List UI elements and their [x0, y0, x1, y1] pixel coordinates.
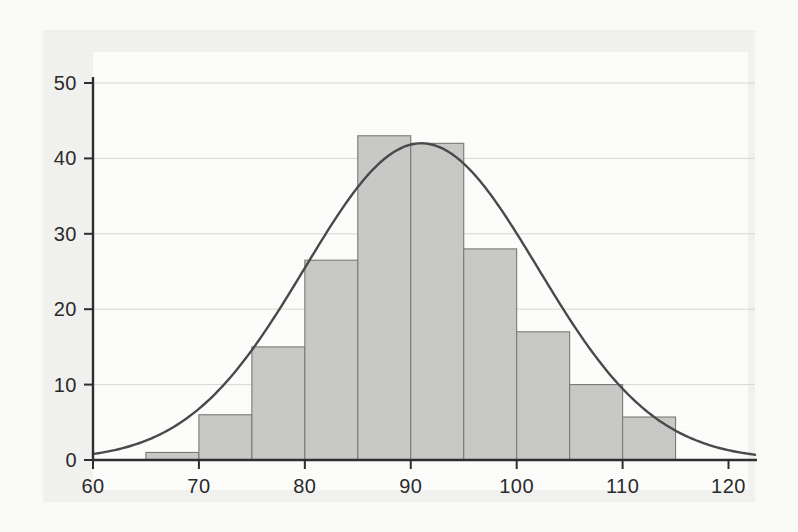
- histogram-bar: [623, 417, 676, 460]
- y-tick-label-10: 10: [54, 374, 77, 396]
- y-tick-label-40: 40: [54, 147, 77, 169]
- y-axis-tick-labels: 01020304050: [54, 72, 77, 471]
- histogram-bar: [305, 260, 358, 460]
- histogram-bar: [464, 249, 517, 460]
- histogram-bar: [570, 385, 623, 460]
- x-tick-label-100: 100: [499, 475, 534, 497]
- histogram-bar: [517, 332, 570, 460]
- x-tick-label-60: 60: [81, 475, 104, 497]
- histogram-chart: 60708090100110120 01020304050: [0, 0, 798, 532]
- x-tick-label-90: 90: [399, 475, 422, 497]
- histogram-bar: [411, 143, 464, 460]
- y-tick-label-0: 0: [65, 449, 77, 471]
- x-axis-tick-labels: 60708090100110120: [81, 475, 746, 497]
- x-tick-label-120: 120: [711, 475, 746, 497]
- x-tick-label-110: 110: [606, 475, 639, 497]
- histogram-bars-group: [146, 136, 676, 460]
- y-tick-label-30: 30: [54, 223, 77, 245]
- x-axis-ticks-group: [93, 460, 729, 469]
- histogram-bar: [358, 136, 411, 460]
- histogram-bar: [199, 415, 252, 460]
- histogram-bar: [252, 347, 305, 460]
- x-tick-label-70: 70: [187, 475, 210, 497]
- y-axis-ticks-group: [84, 83, 93, 460]
- y-tick-label-50: 50: [54, 72, 77, 94]
- figure-root: 60708090100110120 01020304050: [0, 0, 798, 532]
- y-tick-label-20: 20: [54, 298, 77, 320]
- x-tick-label-80: 80: [293, 475, 316, 497]
